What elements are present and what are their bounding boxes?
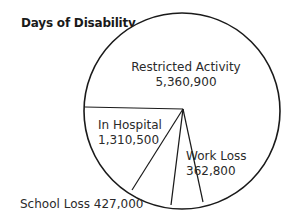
slice-value: 1,310,500 xyxy=(98,133,162,148)
slice-name: In Hospital xyxy=(98,118,162,133)
slice-name: Work Loss xyxy=(186,149,247,164)
slice-name: Restricted Activity xyxy=(131,60,241,75)
slice-label-restricted-activity: Restricted Activity 5,360,900 xyxy=(131,60,241,90)
slice-label-school-loss: School Loss 427,000 xyxy=(20,197,143,212)
slice-label-in-hospital: In Hospital 1,310,500 xyxy=(98,118,162,148)
slice-value: 362,800 xyxy=(186,164,247,179)
pie-chart xyxy=(0,0,291,224)
slice-label-work-loss: Work Loss 362,800 xyxy=(186,149,247,179)
slice-value: 5,360,900 xyxy=(131,75,241,90)
